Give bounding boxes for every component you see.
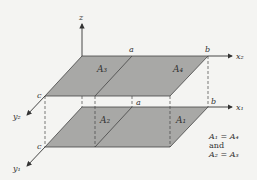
region-a3-label: A₃ — [96, 64, 107, 74]
y1-axis — [27, 147, 45, 166]
a-label-bottom: a — [136, 98, 141, 107]
z-axis-label: z — [78, 13, 84, 22]
x2-axis-label: x₂ — [236, 52, 244, 61]
region-a2-label: A₂ — [99, 115, 110, 125]
y2-axis-label: y₂ — [12, 112, 21, 121]
b-label-top: b — [205, 45, 210, 54]
a-label-top: a — [129, 45, 134, 54]
note-line-1: A₁ = A₄ — [209, 132, 239, 141]
x1-axis-label: x₁ — [236, 103, 244, 112]
c-label-top: c — [37, 91, 42, 100]
y2-axis — [27, 96, 45, 115]
equality-note: A₁ = A₄ and A₂ = A₃ — [209, 132, 239, 159]
top-plane — [45, 56, 208, 96]
bottom-plane — [45, 107, 208, 147]
region-a4-label: A₄ — [172, 64, 183, 74]
note-line-2: and — [209, 141, 239, 150]
region-a1-label: A₁ — [175, 115, 186, 125]
b-label-bottom: b — [211, 97, 216, 106]
c-label-bottom: c — [37, 142, 42, 151]
y1-axis-label: y₁ — [12, 164, 21, 173]
note-line-3: A₂ = A₃ — [209, 150, 239, 159]
